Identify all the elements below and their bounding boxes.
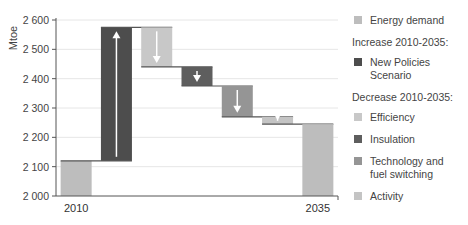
legend-item-efficiency: Efficiency	[352, 111, 468, 124]
legend: Energy demand Increase 2010-2035: New Po…	[352, 14, 468, 212]
legend-item-technology: Technology and fuel switching	[352, 155, 468, 181]
swatch-technology	[354, 157, 362, 165]
swatch-energy-demand	[354, 16, 362, 24]
legend-label-line1: Technology and	[370, 155, 444, 167]
legend-item-new-policies: New Policies Scenario	[352, 56, 468, 82]
waterfall-chart: 2 0002 1002 2002 3002 4002 5002 60020102…	[0, 0, 350, 225]
legend-heading-increase: Increase 2010-2035:	[352, 36, 468, 49]
legend-label: Energy demand	[370, 14, 444, 27]
y-tick-label: 2 300	[23, 102, 49, 114]
legend-label-line2: fuel switching	[370, 168, 433, 180]
bars	[61, 27, 334, 196]
legend-label: Insulation	[370, 133, 415, 146]
legend-label: New Policies Scenario	[370, 56, 468, 82]
legend-label: Activity	[370, 190, 403, 203]
y-tick-label: 2 400	[23, 73, 49, 85]
y-tick-label: 2 200	[23, 131, 49, 143]
swatch-new-policies	[354, 58, 362, 66]
y-tick-label: 2 600	[23, 14, 49, 26]
y-tick-label: 2 100	[23, 161, 49, 173]
x-tick-label: 2010	[64, 202, 88, 214]
legend-label: Efficiency	[370, 111, 415, 124]
bar-6	[302, 124, 333, 196]
swatch-insulation	[354, 135, 362, 143]
legend-heading-decrease: Decrease 2010-2035:	[352, 91, 468, 104]
swatch-activity	[354, 192, 362, 200]
legend-item-energy-demand: Energy demand	[352, 14, 468, 27]
legend-item-insulation: Insulation	[352, 133, 468, 146]
legend-item-activity: Activity	[352, 190, 468, 203]
y-tick-label: 2 000	[23, 190, 49, 202]
swatch-efficiency	[354, 113, 362, 121]
gridlines	[56, 20, 338, 167]
y-tick-label: 2 500	[23, 43, 49, 55]
x-tick-label: 2035	[306, 202, 330, 214]
legend-label: Technology and fuel switching	[370, 155, 444, 181]
bar-0	[61, 161, 92, 196]
y-axis-label: Mtoe	[7, 26, 19, 50]
